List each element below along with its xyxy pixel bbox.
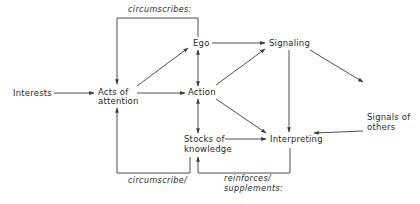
node-acts-of-attention: Acts of attention — [98, 87, 139, 106]
node-action: Action — [188, 87, 216, 97]
flow-diagram: Interests Acts of attention Ego Action S… — [0, 0, 420, 204]
arrow-action-to-interpreting — [216, 99, 266, 133]
loop-ego-circumscribes-acts — [117, 18, 198, 84]
node-stocks-line1: Stocks of — [184, 134, 225, 144]
node-stocks-of-knowledge: Stocks of knowledge — [184, 134, 232, 154]
label-supplements: supplements: — [224, 184, 283, 193]
node-stocks-line2: knowledge — [184, 144, 232, 154]
node-signals-of-others: Signals of others — [367, 112, 411, 132]
arrow-acts-to-ego — [137, 48, 188, 86]
node-interpreting-label: Interpreting — [270, 134, 323, 144]
node-signals-line1: Signals of — [367, 112, 411, 122]
arrow-action-to-signaling — [216, 49, 265, 85]
node-signals-line2: others — [367, 122, 396, 132]
node-interests-label: Interests — [13, 88, 52, 98]
node-signaling: Signaling — [269, 38, 310, 48]
label-circumscribe-bottom: circumscribe/ — [128, 176, 188, 185]
label-circumscribes-top: circumscribes: — [128, 5, 192, 14]
node-ego: Ego — [193, 38, 210, 48]
arrow-signals-of-others-to-interpreting — [314, 131, 363, 133]
node-signaling-label: Signaling — [269, 38, 310, 48]
node-interpreting: Interpreting — [270, 134, 323, 144]
node-ego-label: Ego — [193, 38, 210, 48]
node-action-label: Action — [188, 87, 216, 97]
label-reinforces: reinforces/ — [224, 174, 272, 183]
loop-stocks-circumscribe-acts — [117, 108, 190, 173]
node-interests: Interests — [13, 88, 52, 98]
arrow-signaling-to-signals-of-others — [310, 50, 363, 82]
node-acts-line2: attention — [98, 96, 139, 106]
